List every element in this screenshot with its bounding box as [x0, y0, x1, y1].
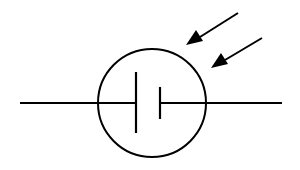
photovoltaic-cell-symbol	[0, 0, 300, 170]
light-arrow-1-icon	[186, 13, 238, 45]
light-arrow-2-icon	[211, 38, 262, 68]
